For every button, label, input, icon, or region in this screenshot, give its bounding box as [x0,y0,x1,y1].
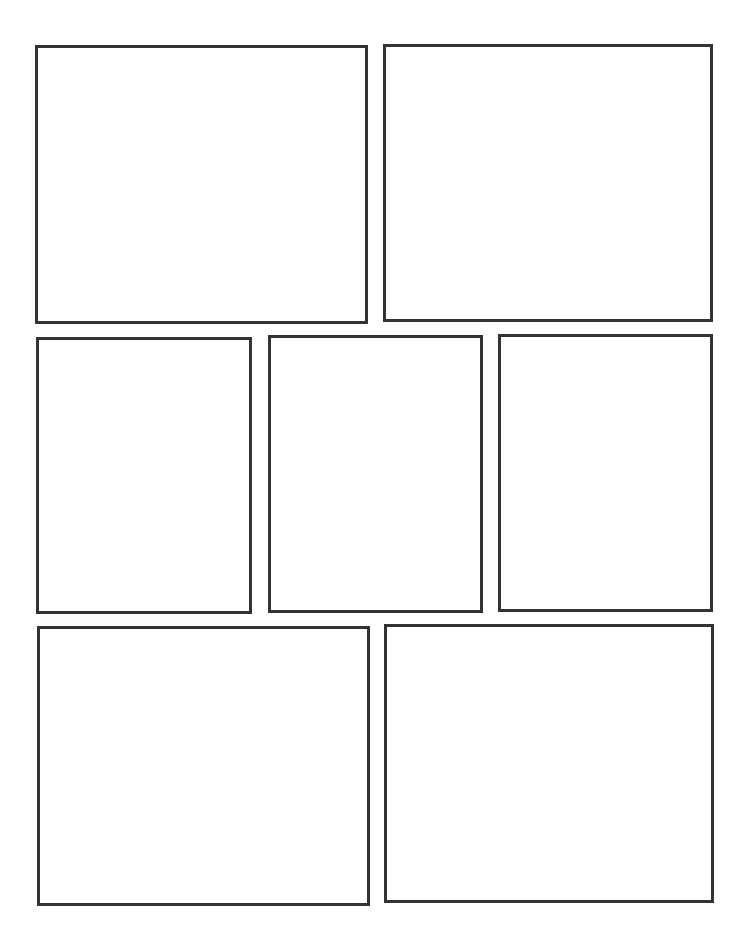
comic-panel-4 [268,335,483,613]
comic-panel-7 [384,624,714,903]
comic-panel-3 [36,337,252,614]
comic-panel-1 [35,45,368,324]
comic-panel-5 [498,334,713,612]
comic-panel-2 [383,44,713,322]
comic-panel-6 [37,626,370,906]
